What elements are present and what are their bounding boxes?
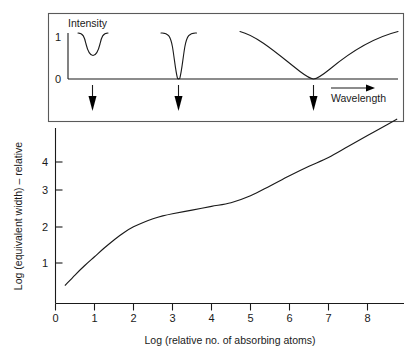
x-tick-label-4: 4 bbox=[208, 312, 214, 324]
y-tick-label-3: 3 bbox=[42, 184, 48, 196]
x-tick-label-8: 8 bbox=[364, 312, 370, 324]
x-tick-label-7: 7 bbox=[325, 312, 331, 324]
x-tick-label-6: 6 bbox=[286, 312, 292, 324]
y-tick-label-1: 1 bbox=[42, 257, 48, 269]
top-panel-border bbox=[49, 14, 404, 122]
x-tick-label-0: 0 bbox=[52, 312, 58, 324]
intensity-axis-title: Intensity bbox=[68, 17, 108, 29]
x-tick-label-2: 2 bbox=[130, 312, 136, 324]
curve-of-growth-figure: Intensity 1 0 bbox=[0, 0, 420, 351]
curve-of-growth-plot: 1 2 3 4 0 1 2 3 4 5 6 7 8 bbox=[12, 119, 404, 346]
down-arrow-icon-weak bbox=[89, 85, 97, 111]
x-tick-label-1: 1 bbox=[91, 312, 97, 324]
saturated-line-profile bbox=[161, 33, 197, 79]
right-arrow-icon bbox=[331, 85, 375, 92]
x-tick-label-5: 5 bbox=[247, 312, 253, 324]
intensity-tick-0: 0 bbox=[55, 73, 61, 85]
x-axis-title: Log (relative no. of absorbing atoms) bbox=[144, 334, 315, 346]
main-x-ticks bbox=[56, 304, 368, 311]
wavelength-axis-title: Wavelength bbox=[331, 92, 386, 104]
curve-of-growth-line bbox=[65, 119, 397, 285]
spectral-line-profile-panel: Intensity 1 0 bbox=[49, 14, 404, 122]
intensity-tick-1: 1 bbox=[55, 31, 61, 43]
x-tick-label-3: 3 bbox=[169, 312, 175, 324]
y-tick-label-2: 2 bbox=[42, 221, 48, 233]
down-arrow-icon-damped bbox=[310, 85, 318, 111]
down-arrow-icon-saturated bbox=[175, 85, 183, 111]
damped-line-profile bbox=[240, 32, 398, 80]
figure-canvas: Intensity 1 0 bbox=[0, 0, 420, 351]
y-tick-label-4: 4 bbox=[42, 156, 48, 168]
y-axis-title: Log (equivalent width) – relative bbox=[12, 142, 24, 290]
main-y-ticks bbox=[56, 162, 63, 263]
weak-line-profile bbox=[78, 33, 108, 56]
